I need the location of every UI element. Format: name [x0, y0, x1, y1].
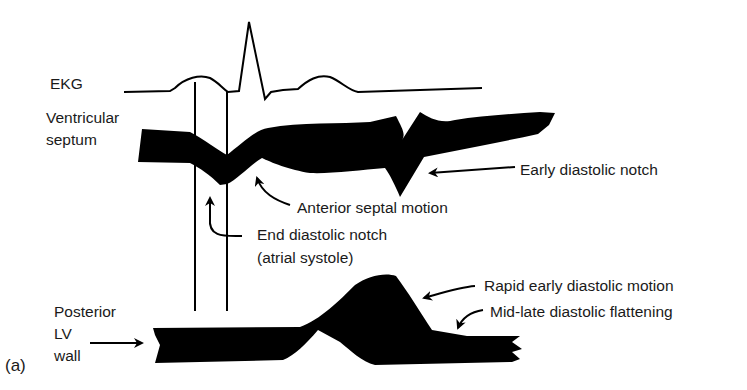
label-septum-1: Ventricular: [46, 108, 119, 128]
label-septum-2: septum: [46, 130, 97, 150]
arrow-rapid-early-diastolic-motion: [424, 286, 475, 298]
label-early-diastolic-notch: Early diastolic notch: [520, 160, 658, 180]
arrow-anterior-septal-motion: [257, 178, 290, 205]
label-anterior-septal-motion: Anterior septal motion: [297, 198, 448, 218]
septum-band: [138, 112, 555, 197]
arrow-end-diastolic-notch: [210, 198, 242, 236]
label-rapid-early-diastolic-motion: Rapid early diastolic motion: [484, 276, 674, 296]
m-mode-diagram: [0, 0, 747, 390]
panel-label: (a): [5, 356, 26, 376]
label-posterior-3: wall: [54, 346, 81, 366]
label-mid-late-diastolic-flattening: Mid-late diastolic flattening: [490, 302, 673, 322]
ekg-trace: [124, 22, 482, 99]
label-posterior-2: LV: [54, 324, 72, 344]
arrow-mid-late-diastolic-flattening: [458, 310, 483, 328]
label-posterior-1: Posterior: [54, 302, 116, 322]
label-end-diastolic-notch-2: (atrial systole): [257, 248, 353, 268]
arrow-early-diastolic-notch: [430, 167, 515, 173]
label-end-diastolic-notch-1: End diastolic notch: [257, 225, 387, 245]
label-ekg: EKG: [50, 74, 83, 94]
